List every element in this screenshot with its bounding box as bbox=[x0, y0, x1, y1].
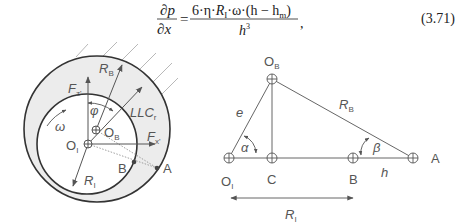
label-b: B bbox=[118, 161, 127, 176]
point-a-dot bbox=[155, 166, 160, 171]
label-ri: RI bbox=[285, 207, 297, 223]
point-c-mark bbox=[267, 153, 277, 163]
point-b-mark bbox=[348, 153, 358, 163]
point-a-mark bbox=[408, 153, 418, 163]
point-oi-mark bbox=[224, 153, 234, 163]
rhs-denominator: h3 bbox=[239, 22, 250, 38]
bearing-diagram: Fz' RB φ LLCr ω OB OI Fx' B A RI bbox=[24, 42, 178, 202]
equation-number: (3.71) bbox=[421, 11, 455, 27]
center-mark-ob bbox=[92, 126, 100, 134]
point-b-dot bbox=[132, 160, 137, 165]
figure: ∂p ∂x = 6·η·RI·ω·(h − hm) h3 , (3.71) bbox=[0, 0, 464, 223]
label-phi: φ bbox=[90, 103, 99, 118]
label-beta: β bbox=[372, 140, 381, 155]
label-llc: LLCr bbox=[130, 105, 157, 122]
lhs-denominator: ∂x bbox=[157, 21, 171, 37]
label-a: A bbox=[163, 161, 172, 176]
beta-arc bbox=[361, 138, 369, 155]
label-c: C bbox=[267, 172, 276, 187]
label-ob: OB bbox=[264, 54, 279, 71]
label-rb: RB bbox=[339, 97, 354, 114]
label-b: B bbox=[349, 172, 358, 187]
label-omega: ω bbox=[55, 119, 65, 134]
geometry-diagram: OB e RB α β OI C B A h RI bbox=[221, 54, 440, 223]
equation-comma: , bbox=[300, 16, 304, 31]
label-a: A bbox=[431, 151, 440, 166]
equals-sign: = bbox=[180, 11, 188, 27]
center-mark-oi bbox=[84, 140, 92, 148]
point-ob-mark bbox=[267, 74, 277, 84]
label-oi: OI bbox=[221, 174, 233, 191]
lhs-numerator: ∂p bbox=[160, 2, 175, 18]
radius-line-rb bbox=[272, 79, 413, 158]
rhs-numerator: 6·η·RI·ω·(h − hm) bbox=[192, 3, 291, 20]
equation-3-71: ∂p ∂x = 6·η·RI·ω·(h − hm) h3 , (3.71) bbox=[157, 2, 455, 38]
label-e: e bbox=[236, 105, 243, 120]
label-alpha: α bbox=[241, 140, 249, 155]
label-h: h bbox=[381, 165, 388, 180]
